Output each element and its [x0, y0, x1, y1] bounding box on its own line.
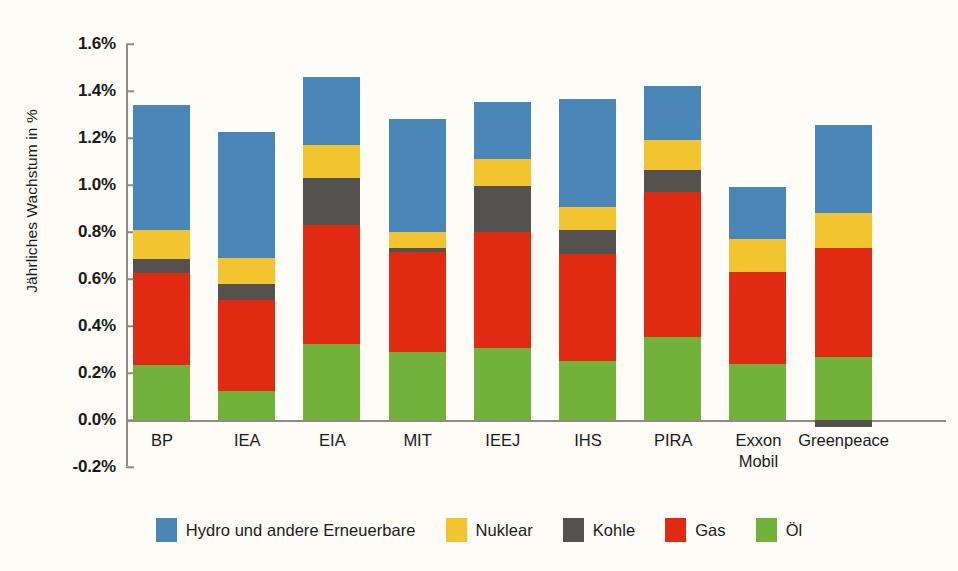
bar-segment-greenpeace-gas[interactable]: [815, 248, 872, 356]
legend-item-gas[interactable]: Gas: [665, 518, 725, 542]
bar-group-8[interactable]: Greenpeace: [815, 0, 872, 500]
bar-segment-iea-hydro-und-andere-erneuerbare[interactable]: [218, 132, 275, 258]
bar-group-2[interactable]: EIA: [303, 0, 360, 500]
bar-segment-exxon-mobil-gas[interactable]: [729, 272, 786, 364]
bar-stack-1: [218, 132, 275, 420]
legend-label-4: Öl: [786, 521, 803, 540]
legend-item-kohle[interactable]: Kohle: [563, 518, 635, 542]
bar-group-6[interactable]: PIRA: [644, 0, 701, 500]
bar-segment-pira-gas[interactable]: [644, 192, 701, 337]
bar-stack-8: [815, 125, 872, 420]
y-tick-label-9: -0.2%: [44, 457, 116, 477]
bar-segment-mit-hydro-und-andere-erneuerbare[interactable]: [389, 119, 446, 232]
bar-stack-5: [559, 99, 616, 420]
y-tick-label-3: 1.0%: [44, 175, 116, 195]
bar-segment-mit-öl[interactable]: [389, 352, 446, 420]
legend-item-nuklear[interactable]: Nuklear: [446, 518, 533, 542]
bar-segment-iea-nuklear[interactable]: [218, 258, 275, 284]
bar-segment-ieej-gas[interactable]: [474, 232, 531, 348]
bar-group-0[interactable]: BP: [133, 0, 190, 500]
bar-segment-ihs-kohle[interactable]: [559, 230, 616, 255]
bar-segment-iea-kohle[interactable]: [218, 284, 275, 300]
bar-segment-exxon-mobil-hydro-und-andere-erneuerbare[interactable]: [729, 187, 786, 239]
bar-segment-ieej-nuklear[interactable]: [474, 159, 531, 186]
bar-group-5[interactable]: IHS: [559, 0, 616, 500]
bar-segment-bp-hydro-und-andere-erneuerbare[interactable]: [133, 105, 190, 230]
bar-segment-ieej-öl[interactable]: [474, 348, 531, 420]
bar-segment-iea-gas[interactable]: [218, 300, 275, 390]
bar-segment-negative-kohle[interactable]: [815, 420, 872, 427]
bar-segment-pira-hydro-und-andere-erneuerbare[interactable]: [644, 86, 701, 140]
bar-stack-3: [389, 119, 446, 420]
legend-swatch-icon-2: [563, 518, 584, 542]
bar-segment-eia-gas[interactable]: [303, 225, 360, 344]
legend-swatch-icon-4: [756, 518, 777, 542]
y-axis-title: Jährliches Wachstum in %: [23, 51, 41, 351]
bar-group-3[interactable]: MIT: [389, 0, 446, 500]
legend-item-hydro[interactable]: Hydro und andere Erneuerbare: [156, 518, 416, 542]
bar-stack-6: [644, 86, 701, 420]
legend-swatch-icon-0: [156, 518, 177, 542]
bar-segment-pira-öl[interactable]: [644, 337, 701, 420]
bar-segment-greenpeace-hydro-und-andere-erneuerbare[interactable]: [815, 125, 872, 213]
plot-area: BPIEAEIAMITIEEJIHSPIRAExxon MobilGreenpe…: [126, 0, 958, 500]
bar-segment-bp-öl[interactable]: [133, 365, 190, 420]
legend-label-0: Hydro und andere Erneuerbare: [186, 521, 416, 540]
y-tick-label-2: 1.2%: [44, 128, 116, 148]
bar-segment-ieej-hydro-und-andere-erneuerbare[interactable]: [474, 102, 531, 160]
bar-segment-eia-hydro-und-andere-erneuerbare[interactable]: [303, 77, 360, 145]
y-tick-label-6: 0.4%: [44, 316, 116, 336]
bar-segment-ihs-öl[interactable]: [559, 361, 616, 420]
y-tick-label-5: 0.6%: [44, 269, 116, 289]
bar-stack-0: [133, 105, 190, 420]
legend-label-2: Kohle: [593, 521, 635, 540]
bar-segment-ieej-kohle[interactable]: [474, 186, 531, 232]
bar-stack-2: [303, 77, 360, 420]
bar-segment-eia-nuklear[interactable]: [303, 145, 360, 178]
bar-group-4[interactable]: IEEJ: [474, 0, 531, 500]
bar-segment-greenpeace-öl[interactable]: [815, 357, 872, 420]
y-tick-label-1: 1.4%: [44, 81, 116, 101]
bar-segment-pira-nuklear[interactable]: [644, 140, 701, 169]
bar-segment-exxon-mobil-öl[interactable]: [729, 364, 786, 420]
legend-item-öl[interactable]: Öl: [756, 518, 803, 542]
y-tick-label-4: 0.8%: [44, 222, 116, 242]
bar-segment-bp-kohle[interactable]: [133, 259, 190, 273]
bar-segment-ihs-hydro-und-andere-erneuerbare[interactable]: [559, 99, 616, 207]
y-axis-tick-labels: 1.6%1.4%1.2%1.0%0.8%0.6%0.4%0.2%0.0%-0.2…: [44, 0, 116, 571]
legend-label-3: Gas: [695, 521, 725, 540]
bar-stack-4: [474, 102, 531, 420]
legend-swatch-icon-1: [446, 518, 467, 542]
bar-segment-ihs-gas[interactable]: [559, 254, 616, 361]
bar-segment-greenpeace-nuklear[interactable]: [815, 213, 872, 248]
bar-segment-iea-öl[interactable]: [218, 391, 275, 420]
bar-segment-mit-nuklear[interactable]: [389, 232, 446, 248]
bar-segment-eia-kohle[interactable]: [303, 178, 360, 225]
bar-group-7[interactable]: Exxon Mobil: [729, 0, 786, 500]
bar-segment-mit-gas[interactable]: [389, 252, 446, 352]
bar-stack-7: [729, 187, 786, 420]
bar-segment-pira-kohle[interactable]: [644, 170, 701, 192]
y-tick-label-8: 0.0%: [44, 410, 116, 430]
stacked-bar-chart: Jährliches Wachstum in % 1.6%1.4%1.2%1.0…: [0, 0, 958, 571]
bar-segment-exxon-mobil-nuklear[interactable]: [729, 239, 786, 272]
chart-legend: Hydro und andere ErneuerbareNuklearKohle…: [0, 518, 958, 542]
x-axis-label-8: Greenpeace: [789, 430, 899, 451]
bar-segment-eia-öl[interactable]: [303, 344, 360, 420]
bar-segment-bp-gas[interactable]: [133, 273, 190, 365]
y-tick-label-0: 1.6%: [44, 34, 116, 54]
legend-swatch-icon-3: [665, 518, 686, 542]
bar-segment-bp-nuklear[interactable]: [133, 230, 190, 259]
legend-label-1: Nuklear: [476, 521, 533, 540]
y-tick-label-7: 0.2%: [44, 363, 116, 383]
bar-segment-ihs-nuklear[interactable]: [559, 207, 616, 229]
bar-group-1[interactable]: IEA: [218, 0, 275, 500]
